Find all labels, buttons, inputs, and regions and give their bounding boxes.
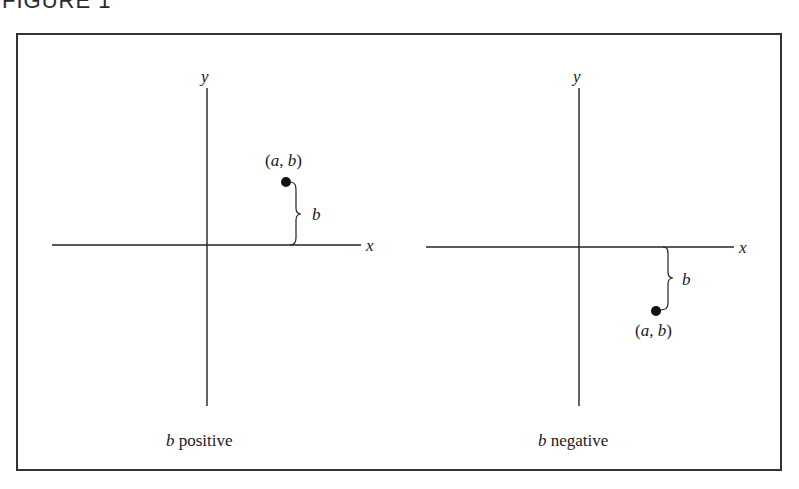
brace-left	[289, 182, 301, 245]
brace-label-left: b	[312, 205, 321, 224]
y-axis-label-right: y	[571, 67, 581, 86]
y-axis-label-left: y	[199, 67, 209, 86]
x-axis-label-right: x	[738, 238, 747, 257]
caption-left: b positive	[166, 431, 233, 450]
figure-frame	[17, 34, 781, 470]
point-dot-right	[651, 306, 661, 316]
x-axis-label-left: x	[365, 236, 374, 255]
figure-diagram: x y (a, b) b b positive x y b (a, b)	[0, 0, 799, 489]
brace-label-right: b	[682, 270, 691, 289]
panel-b-negative: x y b (a, b) b negative	[426, 67, 747, 450]
point-label-right: (a, b)	[635, 321, 672, 340]
point-label-left: (a, b)	[265, 151, 302, 170]
panel-b-positive: x y (a, b) b b positive	[52, 67, 374, 450]
caption-right: b negative	[538, 431, 608, 450]
brace-right	[659, 247, 673, 310]
